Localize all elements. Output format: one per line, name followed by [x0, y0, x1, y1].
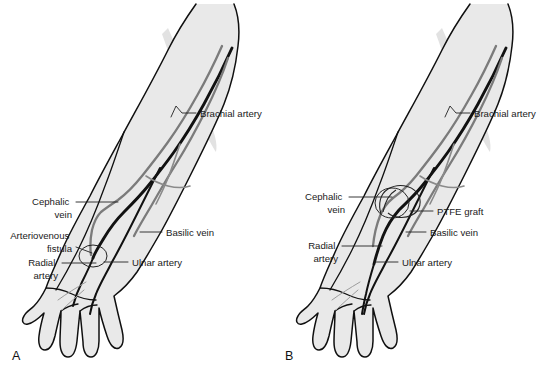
label-radial-artery-a-line1: Radial	[28, 257, 55, 268]
arm-outline-a	[23, 4, 239, 357]
label-cephalic-vein-b: Cephalic vein	[305, 191, 345, 215]
label-radial-artery-b-line1: Radial	[308, 240, 335, 251]
label-basilic-vein-b: Basilic vein	[430, 227, 478, 238]
panel-letter-a: A	[12, 349, 21, 363]
label-cephalic-vein-a: Cephalic vein	[32, 196, 72, 220]
label-arteriovenous-fistula-a-line1: Arteriovenous	[10, 230, 69, 241]
panel-b: Brachial artery Cephalic vein PTFE graft…	[285, 4, 536, 363]
label-arteriovenous-fistula-a-line2: fistula	[47, 243, 73, 254]
label-radial-artery-b: Radial artery	[308, 240, 338, 264]
label-radial-artery-b-line2: artery	[313, 253, 338, 264]
anatomy-illustration: Brachial artery Cephalic vein Basilic ve…	[0, 0, 551, 371]
label-arteriovenous-fistula-a: Arteriovenous fistula	[10, 230, 73, 254]
arm-outline-b	[297, 4, 513, 357]
label-cephalic-vein-a-line1: Cephalic	[32, 196, 70, 207]
panel-a: Brachial artery Cephalic vein Basilic ve…	[10, 4, 262, 363]
label-cephalic-vein-b-line2: vein	[327, 204, 345, 215]
label-radial-artery-a-line2: artery	[33, 270, 58, 281]
figure-root: Brachial artery Cephalic vein Basilic ve…	[0, 0, 551, 371]
label-ptfe-graft-b: PTFE graft	[437, 206, 484, 217]
label-brachial-artery-a: Brachial artery	[200, 108, 262, 119]
label-basilic-vein-a: Basilic vein	[166, 227, 214, 238]
label-cephalic-vein-b-line1: Cephalic	[305, 191, 343, 202]
label-cephalic-vein-a-line2: vein	[54, 209, 72, 220]
label-brachial-artery-b: Brachial artery	[474, 108, 536, 119]
label-ulnar-artery-b: Ulnar artery	[402, 257, 452, 268]
panel-letter-b: B	[285, 349, 293, 363]
label-ulnar-artery-a: Ulnar artery	[132, 257, 182, 268]
